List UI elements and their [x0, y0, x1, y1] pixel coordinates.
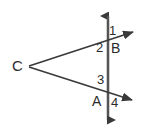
angle-label-2: 2: [96, 41, 103, 54]
angle-label-1: 1: [109, 24, 116, 37]
angle-label-3: 3: [97, 73, 104, 86]
angle-label-4: 4: [111, 96, 118, 109]
point-label-b: B: [111, 41, 120, 55]
geometry-figure: C B A 1 2 3 4: [0, 0, 145, 134]
point-label-a: A: [92, 94, 101, 108]
point-label-c: C: [12, 58, 23, 73]
